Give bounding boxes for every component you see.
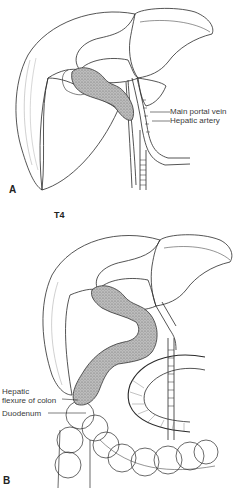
panel-letter-a: A	[9, 184, 16, 195]
panel-b-drawing	[43, 235, 232, 488]
panel-letter-b: B	[3, 475, 10, 486]
label-hepatic-artery: Hepatic artery	[170, 116, 220, 125]
label-flexure-of-colon: flexure of colon	[2, 396, 56, 405]
stage-label: T4	[54, 210, 65, 220]
label-hepatic: Hepatic	[2, 387, 29, 396]
label-main-portal-vein: Main portal vein	[170, 107, 226, 116]
panel-a-drawing	[16, 8, 213, 190]
label-duodenum: Duodenum	[2, 409, 41, 418]
